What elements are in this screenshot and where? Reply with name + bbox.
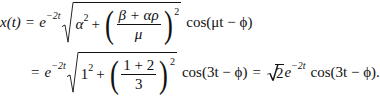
exp-base-2: e xyxy=(284,64,291,81)
fraction-numerator: 1 + 2 xyxy=(121,57,156,73)
fraction: β + αρ μ xyxy=(117,7,161,42)
fraction-numerator: β + αρ xyxy=(117,7,161,23)
equation-line-2: = e−2t 12 + ( 1 + 2 3 ) 2 cos(3t − ϕ) = … xyxy=(31,52,380,93)
radical-icon xyxy=(62,2,74,43)
exp-power: −2t xyxy=(51,60,66,71)
exp-power: −2t xyxy=(46,10,61,21)
left-paren: ( xyxy=(105,5,114,43)
plus-sign: + xyxy=(91,16,99,33)
paren-power: 2 xyxy=(170,56,175,67)
equals-sign: = xyxy=(26,14,34,31)
radical-icon xyxy=(267,64,275,81)
square-root: 12 + ( 1 + 2 3 ) 2 xyxy=(67,52,177,93)
cos-term-2: cos(3t − ϕ). xyxy=(311,64,380,81)
square-root: α2 + ( β + αρ μ ) 2 xyxy=(62,2,182,43)
right-paren: ) xyxy=(159,55,168,93)
radical-icon xyxy=(67,52,79,93)
alpha-power: 2 xyxy=(83,12,88,23)
fraction: 1 + 2 3 xyxy=(121,57,156,92)
alpha: α xyxy=(76,16,84,33)
cos-term: cos(μt − ϕ) xyxy=(186,14,252,31)
radicand: α2 + ( β + αρ μ ) 2 xyxy=(74,2,182,43)
plus-sign: + xyxy=(96,66,104,83)
one: 1 xyxy=(81,66,89,83)
equation-line-1: x(t) = e−2t α2 + ( β + αρ μ ) 2 cos(μt −… xyxy=(0,2,252,43)
exp-power-2: −2t xyxy=(291,60,306,71)
equals-sign-2: = xyxy=(252,64,260,81)
exp-base: e xyxy=(44,64,51,81)
right-paren: ) xyxy=(164,5,173,43)
fraction-denominator: μ xyxy=(135,26,143,42)
lhs: x(t) xyxy=(0,14,21,31)
equals-sign: = xyxy=(31,64,39,81)
square-root-2: 2 xyxy=(267,64,285,81)
fraction-denominator: 3 xyxy=(135,76,143,92)
left-paren: ( xyxy=(110,55,119,93)
exp-base: e xyxy=(39,14,46,31)
radicand: 12 + ( 1 + 2 3 ) 2 xyxy=(79,52,177,93)
cos-term: cos(3t − ϕ) xyxy=(182,64,248,81)
paren-power: 2 xyxy=(174,6,179,17)
one-power: 2 xyxy=(88,62,93,73)
